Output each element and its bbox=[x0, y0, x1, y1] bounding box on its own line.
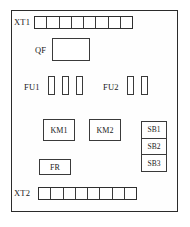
control-panel-layout-diagram: XT1 QF FU1 FU2 KM1 KM2 FR SB1 SB2 SB3 XT… bbox=[0, 0, 190, 227]
terminal-cell bbox=[113, 188, 125, 199]
pushbutton-stack: SB1 SB2 SB3 bbox=[141, 121, 167, 172]
contactor-km2: KM2 bbox=[89, 119, 121, 141]
fuse-element bbox=[127, 76, 134, 95]
terminal-cell bbox=[100, 188, 112, 199]
terminal-strip-xt1 bbox=[34, 16, 133, 29]
terminal-cell bbox=[35, 17, 47, 28]
terminal-cell bbox=[96, 17, 108, 28]
fuse-element bbox=[48, 76, 55, 95]
circuit-breaker-qf-label: QF bbox=[35, 46, 46, 55]
terminal-cell bbox=[60, 17, 72, 28]
fuse-group-fu1-label: FU1 bbox=[24, 83, 40, 92]
terminal-cell bbox=[84, 17, 96, 28]
terminal-cell bbox=[39, 188, 51, 199]
fuse-group-fu2-label: FU2 bbox=[103, 83, 119, 92]
circuit-breaker-qf bbox=[52, 38, 90, 61]
fuse-element bbox=[141, 76, 148, 95]
terminal-strip-xt1-label: XT1 bbox=[14, 18, 30, 27]
pushbutton-sb3: SB3 bbox=[142, 155, 166, 171]
terminal-cell bbox=[51, 188, 63, 199]
thermal-relay-fr: FR bbox=[39, 159, 71, 175]
contactor-km1: KM1 bbox=[43, 119, 75, 141]
terminal-cell bbox=[121, 17, 132, 28]
terminal-strip-xt2-label: XT2 bbox=[14, 189, 30, 198]
control-cabinet-enclosure bbox=[11, 10, 178, 212]
terminal-cell bbox=[109, 17, 121, 28]
terminal-cell bbox=[72, 17, 84, 28]
terminal-cell bbox=[47, 17, 59, 28]
terminal-cell bbox=[88, 188, 100, 199]
terminal-cell bbox=[76, 188, 88, 199]
terminal-cell bbox=[125, 188, 136, 199]
terminal-cell bbox=[64, 188, 76, 199]
pushbutton-sb1: SB1 bbox=[142, 122, 166, 139]
pushbutton-sb2: SB2 bbox=[142, 139, 166, 156]
terminal-strip-xt2 bbox=[38, 187, 137, 200]
fuse-element bbox=[62, 76, 69, 95]
fuse-element bbox=[76, 76, 83, 95]
